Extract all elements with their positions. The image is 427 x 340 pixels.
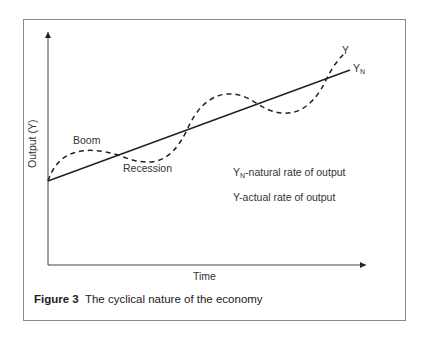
x-axis-label: Time	[193, 270, 216, 282]
caption-text: The cyclical nature of the economy	[85, 293, 263, 305]
natural-output-line	[48, 70, 350, 181]
cycle-chart	[0, 0, 427, 340]
figure-caption: Figure 3 The cyclical nature of the econ…	[34, 293, 263, 305]
legend-actual: Y-actual rate of output	[233, 191, 335, 203]
y-axis-label: Output (Y)	[26, 120, 38, 168]
caption-label: Figure 3	[34, 293, 79, 305]
legend-natural-text: -natural rate of output	[245, 166, 345, 178]
natural-line-label-sub: N	[360, 68, 365, 75]
boom-label: Boom	[73, 134, 100, 146]
legend-natural-main: Y	[233, 166, 240, 178]
recession-label: Recession	[123, 162, 172, 174]
natural-line-label: YN	[353, 62, 365, 75]
actual-line-label: Y	[342, 44, 349, 56]
legend-natural: YN-natural rate of output	[233, 166, 345, 179]
natural-line-label-main: Y	[353, 62, 360, 74]
actual-output-curve	[48, 54, 344, 181]
